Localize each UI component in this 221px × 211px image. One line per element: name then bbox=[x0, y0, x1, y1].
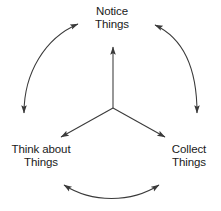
diagram-canvas: Notice Things Think about Things Collect… bbox=[0, 0, 221, 211]
connector-arc-bottom bbox=[64, 185, 159, 199]
node-notice-line1: Notice bbox=[78, 5, 146, 18]
node-label-think-about-things: Think about Things bbox=[3, 143, 79, 168]
node-label-collect-things: Collect Things bbox=[160, 143, 218, 168]
node-collect-line2: Things bbox=[160, 156, 218, 169]
node-think-line1: Think about bbox=[3, 143, 79, 156]
connector-arc-left bbox=[24, 24, 78, 113]
node-label-notice: Notice Things bbox=[78, 5, 146, 30]
connector-spoke-down-right bbox=[113, 108, 165, 137]
connector-arc-right bbox=[155, 25, 197, 113]
node-notice-line2: Things bbox=[78, 18, 146, 31]
node-collect-line1: Collect bbox=[160, 143, 218, 156]
diagram-graphics bbox=[0, 0, 221, 211]
connector-spoke-down-left bbox=[61, 108, 113, 137]
node-think-line2: Things bbox=[3, 156, 79, 169]
